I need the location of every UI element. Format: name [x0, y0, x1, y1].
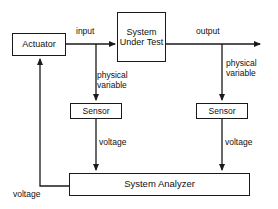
edge-analyzer-to-actuator	[40, 59, 69, 186]
block-sensor-right[interactable]: Sensor	[196, 103, 248, 119]
block-system-analyzer[interactable]: System Analyzer	[69, 173, 250, 196]
edge-label-physical-variable-left: physical variable	[97, 70, 128, 90]
edge-label-input: input	[76, 26, 94, 36]
block-sensor-left[interactable]: Sensor	[70, 103, 122, 119]
edge-label-voltage-left: voltage	[99, 137, 126, 147]
edge-label-physical-variable-right: physical variable	[226, 58, 257, 78]
edge-label-voltage-feedback: voltage	[13, 189, 40, 199]
block-diagram: Actuator System Under Test Sensor Sensor…	[0, 0, 278, 209]
block-system-under-test[interactable]: System Under Test	[117, 12, 166, 62]
edge-label-voltage-right: voltage	[225, 137, 252, 147]
edge-label-output: output	[196, 26, 220, 36]
block-actuator[interactable]: Actuator	[12, 33, 66, 56]
